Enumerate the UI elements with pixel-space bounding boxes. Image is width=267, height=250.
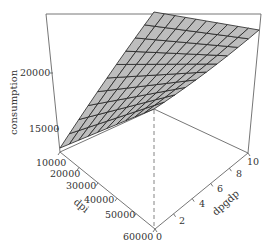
dpgdp-tick-10: 10 [247,156,259,167]
dpgdp-axis-title: dpgdp [210,188,241,218]
plot-canvas: consumption 20000 15000 10000 20000 3000… [0,0,267,250]
dpi-axis-ticks [58,152,155,232]
z-tick-15000: 15000 [29,123,59,134]
dpgdp-tick-2: 2 [179,215,185,226]
surface-mesh [60,12,259,148]
dpi-tick-30000: 30000 [66,180,96,191]
surface-plot: consumption 20000 15000 10000 20000 3000… [0,0,267,250]
dpgdp-tick-4: 4 [199,198,205,209]
dpgdp-tick-0: 0 [156,231,162,242]
dpgdp-tick-8: 8 [236,168,242,179]
dpi-tick-50000: 50000 [105,209,135,220]
dpi-tick-10000: 10000 [36,157,66,168]
dpgdp-tick-6: 6 [217,183,223,194]
dpi-tick-20000: 20000 [50,168,80,179]
dpi-tick-60000: 60000 [123,231,153,242]
z-axis-title: consumption [8,69,19,135]
z-tick-20000: 20000 [20,67,50,78]
